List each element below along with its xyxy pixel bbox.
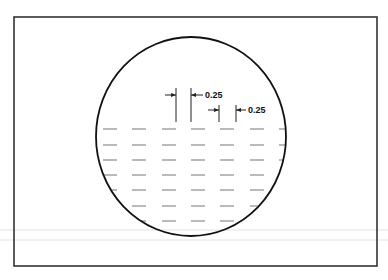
- arrow-right-icon: [214, 108, 219, 112]
- dimension-label: 0.25: [205, 90, 223, 100]
- dimension-2: 0.25: [208, 105, 266, 122]
- diagram-canvas: 0.250.25: [0, 0, 388, 280]
- faint-guide-lines: [0, 230, 388, 240]
- arrow-left-icon: [236, 108, 241, 112]
- dimension-annotations: 0.250.25: [165, 88, 266, 122]
- dimension-label: 0.25: [248, 105, 266, 115]
- dash-pattern: [103, 129, 293, 221]
- outer-frame: [14, 17, 377, 266]
- arrow-left-icon: [191, 93, 196, 97]
- dimension-1: 0.25: [165, 88, 223, 122]
- arrow-right-icon: [171, 93, 176, 97]
